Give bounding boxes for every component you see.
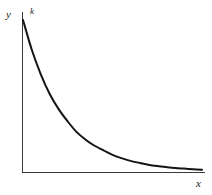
chart-figure: y x k bbox=[0, 0, 212, 195]
y-intercept-label: k bbox=[30, 7, 34, 16]
exponential-decay-curve bbox=[23, 20, 202, 170]
x-axis-label: x bbox=[196, 178, 201, 189]
exponential-decay-plot bbox=[0, 0, 212, 195]
data-curve-group bbox=[23, 20, 202, 170]
y-axis-label: y bbox=[6, 9, 11, 20]
